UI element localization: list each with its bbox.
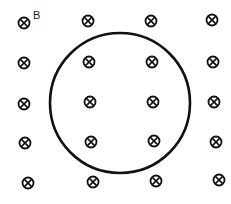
- field-into-page-icon: [84, 57, 95, 68]
- field-into-page-icon: [207, 15, 218, 26]
- diagram-svg: [0, 0, 231, 204]
- field-label-b: B: [33, 9, 40, 21]
- field-into-page-icon: [85, 97, 96, 108]
- field-into-page-icon: [86, 137, 97, 148]
- field-into-page-icon: [19, 99, 30, 110]
- field-into-page-icon: [88, 177, 99, 188]
- conducting-loop: [50, 33, 190, 173]
- field-into-page-icon: [209, 97, 220, 108]
- field-into-page-icon: [211, 137, 222, 148]
- field-into-page-icon: [19, 58, 30, 69]
- field-into-page-icon: [148, 97, 159, 108]
- field-into-page-icon: [23, 178, 34, 189]
- field-into-page-icon: [83, 16, 94, 27]
- magnetic-field-diagram: B: [0, 0, 231, 204]
- field-into-page-icon: [151, 176, 162, 187]
- field-into-page-icon: [208, 57, 219, 68]
- field-into-page-icon: [214, 175, 225, 186]
- field-into-page-icon: [19, 18, 30, 29]
- field-into-page-icon: [149, 136, 160, 147]
- field-into-page-icon: [147, 57, 158, 68]
- field-into-page-icon: [20, 138, 31, 149]
- field-into-page-icon: [146, 16, 157, 27]
